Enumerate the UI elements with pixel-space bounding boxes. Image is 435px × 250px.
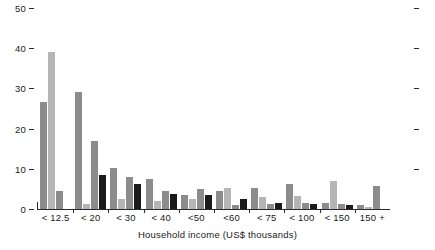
x-tick-mark	[144, 209, 145, 213]
y-tick-mark	[29, 129, 34, 130]
bar	[373, 186, 380, 209]
x-tick-label: < 30	[116, 212, 136, 223]
x-tick-label: <60	[223, 212, 240, 223]
y-tick-label: 10	[4, 163, 26, 174]
x-tick-label: < 75	[257, 212, 277, 223]
x-tick-mark	[284, 209, 285, 213]
bar	[134, 184, 141, 209]
bar	[216, 191, 223, 209]
bar	[330, 181, 337, 209]
y-tick-label: 20	[4, 123, 26, 134]
bar	[189, 199, 196, 209]
bar	[286, 184, 293, 209]
bar-group	[108, 8, 143, 209]
x-tick-label: < 12.5	[42, 212, 70, 223]
bar	[40, 102, 47, 209]
x-tick-label: <50	[188, 212, 205, 223]
bar	[205, 195, 212, 209]
bar	[110, 168, 117, 209]
x-tick-label: < 20	[81, 212, 101, 223]
bar	[224, 188, 231, 209]
x-tick-label: 150 +	[360, 212, 385, 223]
bar-chart: 01020304050 < 12.5< 20< 30< 40<50<60< 75…	[0, 0, 435, 250]
bar	[48, 52, 55, 209]
plot-area	[38, 8, 390, 209]
y-tick-mark-right	[414, 8, 419, 9]
y-tick-mark	[29, 209, 34, 210]
bar	[118, 199, 125, 209]
y-tick-mark-right	[414, 48, 419, 49]
bar-group	[284, 8, 319, 209]
y-tick-mark	[29, 48, 34, 49]
y-tick-label: 40	[4, 43, 26, 54]
x-tick-label: < 40	[151, 212, 171, 223]
y-tick-label: 0	[4, 204, 26, 215]
y-tick-mark-right	[414, 169, 419, 170]
x-tick-mark	[249, 209, 250, 213]
bar-group	[73, 8, 108, 209]
x-tick-mark	[355, 209, 356, 213]
y-tick-label: 50	[4, 3, 26, 14]
bar	[91, 141, 98, 209]
y-tick-mark	[29, 169, 34, 170]
bar	[56, 191, 63, 209]
bar	[197, 189, 204, 209]
x-tick-mark	[73, 209, 74, 213]
bar	[126, 177, 133, 209]
bar-group	[249, 8, 284, 209]
x-tick-mark	[214, 209, 215, 213]
bar-group	[179, 8, 214, 209]
bar	[294, 196, 301, 209]
x-axis-title: Household income (US$ thousands)	[0, 229, 435, 240]
bar-group	[214, 8, 249, 209]
y-tick-mark	[29, 88, 34, 89]
bar	[75, 92, 82, 209]
y-tick-mark	[29, 8, 34, 9]
x-tick-mark	[108, 209, 109, 213]
x-tick-label: < 100	[289, 212, 314, 223]
bar	[154, 201, 161, 209]
bar	[146, 179, 153, 209]
x-tick-mark	[320, 209, 321, 213]
bar	[240, 199, 247, 209]
bar	[251, 188, 258, 209]
bar	[181, 195, 188, 209]
bar-group	[144, 8, 179, 209]
bar	[170, 194, 177, 209]
bar	[259, 197, 266, 209]
bar-group	[355, 8, 390, 209]
y-tick-mark-right	[414, 88, 419, 89]
bar	[162, 191, 169, 209]
x-tick-label: < 150	[325, 212, 350, 223]
bar-group	[320, 8, 355, 209]
bar-group	[38, 8, 73, 209]
y-tick-mark-right	[414, 129, 419, 130]
x-tick-mark	[179, 209, 180, 213]
y-tick-label: 30	[4, 83, 26, 94]
bar	[99, 175, 106, 209]
